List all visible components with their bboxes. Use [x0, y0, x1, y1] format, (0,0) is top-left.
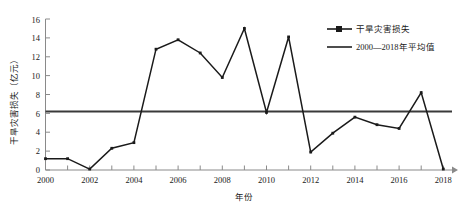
data-point — [110, 147, 113, 150]
data-point — [420, 91, 423, 94]
x-tick-labels: 2000 2002 2004 2006 2008 2010 2012 2014 … — [37, 175, 452, 185]
x-tick-label: 2018 — [435, 175, 452, 185]
y-tick-label: 4 — [36, 127, 41, 137]
data-point — [66, 157, 69, 160]
legend-label-series: 干旱灾害损失 — [356, 24, 410, 34]
legend-marker-series — [336, 26, 342, 32]
x-axis-arrow-icon — [452, 167, 458, 174]
x-tick-label: 2002 — [81, 175, 98, 185]
y-tick-labels: 16 14 12 10 8 6 4 2 0 — [32, 15, 41, 175]
data-point — [44, 157, 47, 160]
y-tick-marks — [46, 19, 51, 170]
x-tick-label: 2016 — [391, 175, 408, 185]
data-point — [287, 36, 290, 39]
data-point — [155, 48, 158, 51]
data-point — [221, 76, 224, 79]
legend-label-average: 2000—2018年平均值 — [356, 42, 435, 52]
drought-loss-line-chart: 干旱灾害损失（亿元） 16 14 12 10 8 6 4 2 0 — [0, 0, 466, 214]
data-point — [331, 132, 334, 135]
y-tick-label: 0 — [36, 165, 40, 175]
x-tick-label: 2008 — [214, 175, 231, 185]
y-tick-label: 2 — [36, 146, 40, 156]
x-tick-label: 2004 — [125, 175, 143, 185]
x-tick-label: 2010 — [258, 175, 275, 185]
y-tick-label: 6 — [36, 109, 40, 119]
x-tick-label: 2014 — [346, 175, 364, 185]
data-point — [177, 38, 180, 41]
y-tick-label: 16 — [32, 15, 41, 25]
x-tick-label: 2006 — [170, 175, 187, 185]
data-point — [88, 168, 91, 171]
x-axis-title: 年份 — [235, 192, 253, 202]
data-point — [243, 27, 246, 30]
data-point — [265, 111, 268, 114]
y-tick-label: 14 — [32, 33, 41, 43]
y-tick-label: 8 — [36, 90, 40, 100]
x-tick-label: 2000 — [37, 175, 54, 185]
data-point — [309, 151, 312, 154]
y-axis-title: 干旱灾害损失（亿元） — [9, 55, 19, 145]
y-tick-label: 12 — [32, 52, 41, 62]
data-point — [133, 141, 136, 144]
data-point — [354, 116, 357, 119]
chart-canvas: 干旱灾害损失（亿元） 16 14 12 10 8 6 4 2 0 — [0, 0, 466, 214]
data-point — [199, 52, 202, 55]
data-point — [376, 123, 379, 126]
data-point — [442, 168, 445, 171]
chart-legend: 干旱灾害损失 2000—2018年平均值 — [327, 24, 435, 52]
data-point — [398, 127, 401, 130]
y-tick-label: 10 — [32, 71, 41, 81]
x-tick-label: 2012 — [302, 175, 319, 185]
x-tick-marks — [46, 166, 444, 171]
